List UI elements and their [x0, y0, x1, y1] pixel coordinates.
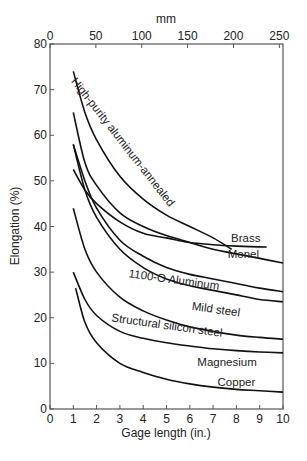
x-tick-label: 10: [276, 412, 290, 426]
x-tick-label: 5: [163, 412, 170, 426]
x-tick-label: 3: [117, 412, 124, 426]
x-tick-label: 6: [186, 412, 193, 426]
x-tick-label: 9: [256, 412, 263, 426]
x2-tick-label: 0: [47, 29, 54, 43]
x-tick-label: 7: [210, 412, 217, 426]
y-tick-label: 60: [34, 128, 48, 142]
y-tick-label: 40: [34, 220, 48, 234]
y-tick-label: 10: [34, 356, 48, 370]
y-tick-label: 50: [34, 174, 48, 188]
x-tick-label: 4: [140, 412, 147, 426]
curve-label: High-purity aluminum-annealed: [69, 75, 177, 208]
y-tick-label: 70: [34, 83, 48, 97]
x2-tick-label: 250: [269, 29, 289, 43]
x2-tick-label: 200: [223, 29, 243, 43]
y-tick-label: 0: [40, 402, 47, 416]
curve-label: Brass: [231, 232, 261, 244]
curve-1100-o-aluminum: [73, 144, 283, 291]
y-tick-label: 20: [34, 311, 48, 325]
y-axis-title: Elongation (%): [8, 187, 22, 266]
elongation-vs-gage-length-chart: 0123456789100102030405060708005010015020…: [0, 0, 307, 461]
curve-label: Magnesium: [197, 356, 256, 368]
curve-label: Mild steel: [191, 300, 241, 319]
x-tick-label: 8: [233, 412, 240, 426]
x-tick-label: 2: [93, 412, 100, 426]
x-axis-title: Gage length (in.): [121, 426, 210, 440]
curve-label: Monel: [228, 248, 259, 260]
curve-labels: High-purity aluminum-annealedBrassMonel1…: [69, 75, 261, 388]
x-tick-label: 1: [70, 412, 77, 426]
x2-axis-title: mm: [156, 12, 176, 26]
x2-tick-label: 100: [132, 29, 152, 43]
x2-tick-label: 50: [89, 29, 103, 43]
curve-label: Copper: [218, 376, 256, 388]
x-tick-label: 0: [47, 412, 54, 426]
x2-tick-label: 150: [178, 29, 198, 43]
y-tick-label: 30: [34, 265, 48, 279]
y-tick-label: 80: [34, 37, 48, 51]
